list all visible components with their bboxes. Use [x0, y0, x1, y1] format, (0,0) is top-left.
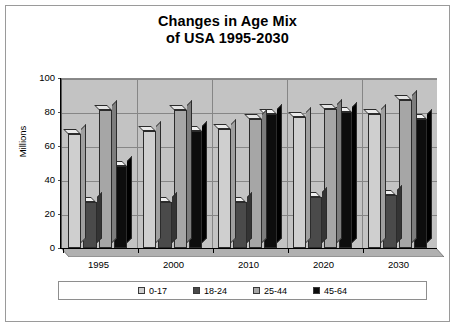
bar-side-face — [231, 119, 236, 243]
legend-item-25-44: 25-44 — [253, 286, 287, 296]
x-axis-tick-mark — [288, 249, 289, 253]
bar-0-17-2030 — [368, 114, 381, 248]
bar-side-face — [187, 100, 192, 243]
gridline-vertical — [287, 79, 288, 249]
plot-floor-shape — [61, 248, 444, 257]
gridline-horizontal — [62, 79, 437, 80]
x-axis-tick-mark — [63, 249, 64, 253]
y-axis-tick-labels: 020406080100 — [23, 69, 55, 253]
legend-item-45-64: 45-64 — [313, 286, 347, 296]
bar-side-face — [81, 124, 86, 243]
bar-side-face — [112, 100, 117, 243]
gridline-vertical — [212, 79, 213, 249]
y-axis-tick-label: 20 — [23, 209, 55, 219]
bar-side-face — [412, 90, 417, 243]
bar-side-face — [277, 104, 282, 243]
bar-0-17-2020 — [293, 117, 306, 248]
chart-frame: Changes in Age Mix of USA 1995-2030 Mill… — [5, 5, 450, 322]
legend-swatch-icon — [138, 287, 145, 294]
bar-side-face — [127, 156, 132, 243]
bar-side-face — [156, 121, 161, 243]
bar-side-face — [397, 185, 402, 243]
bar-0-17-2010 — [218, 129, 231, 248]
legend-items: 0-1718-2425-4445-64 — [59, 282, 426, 299]
bar-side-face — [172, 192, 177, 243]
x-axis-tick-label: 2010 — [211, 259, 286, 271]
x-axis-tick-mark — [363, 249, 364, 253]
y-axis-tick-label: 60 — [23, 141, 55, 151]
chart-title: Changes in Age Mix of USA 1995-2030 — [6, 13, 449, 47]
bar-side-face — [381, 104, 386, 243]
bar-side-face — [352, 102, 357, 243]
legend-label: 25-44 — [264, 286, 287, 296]
x-axis-tick-mark — [138, 249, 139, 253]
chart-title-line-1: Changes in Age Mix — [6, 13, 449, 30]
y-axis-tick-label: 40 — [23, 175, 55, 185]
x-axis-tick-labels: 19952000201020202030 — [61, 259, 441, 273]
y-axis-tick-label: 80 — [23, 107, 55, 117]
chart-legend: 0-1718-2425-4445-64 — [58, 281, 427, 300]
bar-side-face — [97, 192, 102, 243]
bar-0-17-1995 — [68, 134, 81, 248]
bar-front-face — [218, 129, 231, 248]
legend-label: 0-17 — [149, 286, 167, 296]
y-axis-tick-label: 100 — [23, 73, 55, 83]
bar-side-face — [322, 187, 327, 243]
y-axis-tick-label: 0 — [23, 243, 55, 253]
bar-side-face — [306, 107, 311, 243]
legend-label: 18-24 — [204, 286, 227, 296]
x-axis-tick-label: 2020 — [286, 259, 361, 271]
legend-item-0-17: 0-17 — [138, 286, 167, 296]
bar-front-face — [143, 131, 156, 248]
bar-side-face — [337, 99, 342, 243]
gridline-vertical — [137, 79, 138, 249]
x-axis-tick-mark — [213, 249, 214, 253]
legend-label: 45-64 — [324, 286, 347, 296]
x-axis-tick-label: 2000 — [136, 259, 211, 271]
y-axis-line — [60, 78, 61, 249]
bar-0-17-2000 — [143, 131, 156, 248]
bar-side-face — [427, 109, 432, 243]
legend-item-18-24: 18-24 — [193, 286, 227, 296]
x-axis-tick-label: 2030 — [361, 259, 436, 271]
legend-swatch-icon — [193, 287, 200, 294]
x-axis-tick-label: 1995 — [61, 259, 136, 271]
plot-floor — [61, 248, 444, 257]
bar-front-face — [368, 114, 381, 248]
bar-front-face — [68, 134, 81, 248]
gridline-vertical — [362, 79, 363, 249]
legend-swatch-icon — [313, 287, 320, 294]
bar-side-face — [202, 121, 207, 243]
x-axis-line — [60, 248, 437, 249]
bar-side-face — [262, 109, 267, 243]
legend-swatch-icon — [253, 287, 260, 294]
bar-front-face — [293, 117, 306, 248]
bar-side-face — [247, 192, 252, 243]
chart-title-line-2: of USA 1995-2030 — [6, 30, 449, 47]
